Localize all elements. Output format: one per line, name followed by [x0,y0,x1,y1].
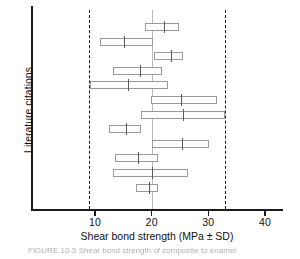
data-row-box [145,23,178,31]
data-row-mean-marker [128,79,129,91]
data-row-box [113,169,189,177]
x-tick-label-40: 40 [259,216,271,228]
data-row-mean-marker [124,36,125,48]
data-row-mean-marker [182,138,183,150]
x-tick-label-10: 10 [89,216,101,228]
data-row-mean-marker [140,65,141,77]
data-row-mean-marker [181,94,182,106]
figure-caption: FIGURE 10-5 Shear bond strength of compo… [28,246,290,255]
shear-bond-strength-chart: 10203040 Shear bond strength (MPa ± SD) … [0,0,300,259]
data-row-mean-marker [164,21,165,33]
data-row-box [151,96,217,104]
y-axis-title: Literature citations [22,20,34,200]
x-axis-title: Shear bond strength (MPa ± SD) [31,230,283,242]
data-row-box [154,52,183,60]
x-axis-line [31,209,283,211]
data-row-mean-marker [152,167,153,179]
upper-reference-line [225,10,226,209]
data-row-box [136,184,159,192]
data-row-mean-marker [138,152,139,164]
x-tick-label-20: 20 [146,216,158,228]
data-row-mean-marker [183,109,184,121]
lower-reference-line [89,10,90,209]
data-row-box [152,140,209,148]
data-row-box [113,67,163,75]
data-row-box [100,38,153,46]
data-row-mean-marker [171,50,172,62]
data-row-mean-marker [126,123,127,135]
data-row-mean-marker [149,182,150,194]
x-tick-label-30: 30 [202,216,214,228]
